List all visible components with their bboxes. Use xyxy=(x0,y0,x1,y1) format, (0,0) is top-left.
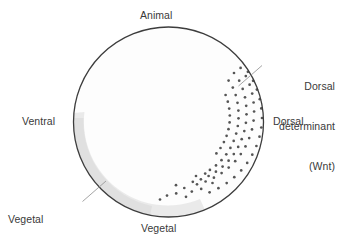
label-dorsal-determinant-line-2: determinant xyxy=(263,120,335,133)
label-vegetal-determinant: Vegetal determinant (vegT, vg1) xyxy=(8,187,104,244)
embryo-diagram: Animal Vegetal Ventral Dorsal Dorsal det… xyxy=(0,0,337,244)
label-ventral-side: Ventral xyxy=(22,115,55,128)
label-vegetal-determinant-line-1: Vegetal xyxy=(8,213,104,226)
label-dorsal-determinant: Dorsal determinant (Wnt) xyxy=(263,54,335,199)
label-animal-pole: Animal xyxy=(140,9,172,22)
label-vegetal-pole: Vegetal xyxy=(141,222,176,235)
label-dorsal-determinant-line-3: (Wnt) xyxy=(263,160,335,173)
label-dorsal-determinant-line-1: Dorsal xyxy=(263,80,335,93)
